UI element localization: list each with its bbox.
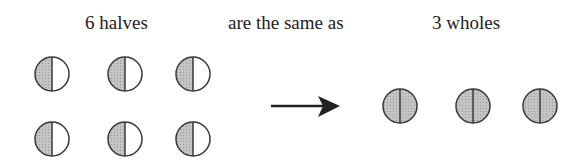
whole-circle-2 xyxy=(456,89,490,123)
whole-circle-1 xyxy=(383,89,417,123)
arrow-right-icon xyxy=(271,96,340,117)
half-circle-2 xyxy=(108,57,142,91)
whole-circle-3 xyxy=(523,89,557,123)
half-circle-5 xyxy=(108,122,142,156)
diagram-canvas xyxy=(0,0,586,167)
half-circle-4 xyxy=(35,122,69,156)
half-circle-6 xyxy=(176,122,210,156)
half-circle-3 xyxy=(176,57,210,91)
half-circle-1 xyxy=(35,57,69,91)
